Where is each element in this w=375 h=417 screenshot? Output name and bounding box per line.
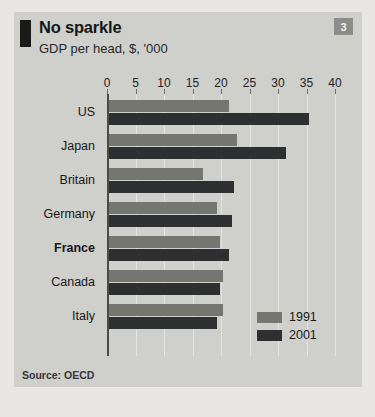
bar-row: Britain [107, 165, 335, 199]
category-label-canada: Canada [51, 275, 95, 289]
bar-germany-2001 [109, 215, 232, 227]
category-label-italy: Italy [72, 309, 95, 323]
bar-italy-2001 [109, 317, 217, 329]
legend-swatch-1991 [257, 312, 282, 323]
gridline [335, 94, 336, 356]
bar-row: Canada [107, 267, 335, 301]
bar-row: US [107, 97, 335, 131]
legend-item-2001: 2001 [257, 328, 317, 342]
bar-row: France [107, 233, 335, 267]
legend-item-1991: 1991 [257, 310, 317, 324]
bar-us-2001 [109, 113, 309, 125]
x-axis-tick-label: 20 [214, 76, 227, 90]
bar-row: Japan [107, 131, 335, 165]
bar-britain-2001 [109, 181, 234, 193]
bar-italy-1991 [109, 304, 223, 316]
x-axis-tick-label: 15 [186, 76, 199, 90]
x-axis-tick-label: 40 [328, 76, 341, 90]
bar-japan-1991 [109, 134, 237, 146]
category-label-france: France [54, 241, 95, 255]
bar-japan-2001 [109, 147, 286, 159]
chart-figure: No sparkle GDP per head, $, '000 3 05101… [14, 12, 362, 387]
bar-canada-2001 [109, 283, 220, 295]
x-axis-tick-label: 25 [243, 76, 256, 90]
source-note: Source: OECD [22, 369, 94, 381]
bar-germany-1991 [109, 202, 217, 214]
bar-us-1991 [109, 100, 229, 112]
chart-title: No sparkle [39, 18, 121, 37]
category-label-britain: Britain [60, 173, 95, 187]
category-label-japan: Japan [61, 139, 95, 153]
x-axis-tick-label: 10 [157, 76, 170, 90]
legend-swatch-2001 [257, 330, 282, 341]
bar-france-2001 [109, 249, 229, 261]
x-axis-tick-label: 35 [300, 76, 313, 90]
legend-label-1991: 1991 [289, 310, 317, 324]
figure-number-badge: 3 [334, 18, 353, 35]
chart-subtitle: GDP per head, $, '000 [39, 41, 168, 56]
bar-britain-1991 [109, 168, 203, 180]
category-label-germany: Germany [44, 207, 95, 221]
x-axis-tick-label: 30 [271, 76, 284, 90]
legend-label-2001: 2001 [289, 328, 317, 342]
x-axis-tick-label: 0 [104, 76, 111, 90]
bar-row: Germany [107, 199, 335, 233]
title-marker-bar [20, 20, 31, 47]
bar-canada-1991 [109, 270, 223, 282]
x-axis-tick-label: 5 [132, 76, 139, 90]
bar-france-1991 [109, 236, 220, 248]
legend: 19912001 [257, 310, 317, 342]
category-label-us: US [78, 105, 95, 119]
